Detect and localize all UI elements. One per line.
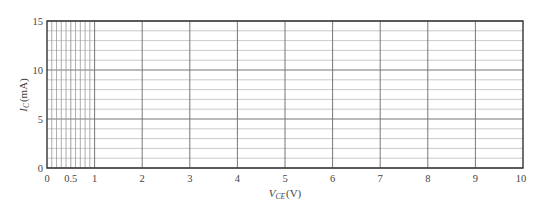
x-tick-label: 3	[187, 173, 192, 184]
x-tick-label: 4	[235, 173, 241, 184]
x-tick-label: 0	[44, 173, 49, 184]
x-tick-label: 6	[330, 173, 335, 184]
x-tick-label: 2	[140, 173, 145, 184]
x-tick-label: 8	[425, 173, 430, 184]
x-tick-label: 7	[378, 173, 383, 184]
x-tick-label: 1	[92, 173, 97, 184]
grid-lines	[47, 21, 523, 168]
y-tick-label: 15	[33, 16, 44, 27]
x-tick-label: 0.5	[64, 173, 77, 184]
x-tick-label: 5	[282, 173, 287, 184]
y-axis-label: IC(mA)	[17, 78, 31, 113]
y-tick-label: 5	[38, 114, 43, 125]
x-axis-label: VCE(V)	[269, 187, 302, 201]
y-tick-label: 0	[38, 163, 43, 174]
x-tick-label: 9	[473, 173, 478, 184]
y-tick-labels: 051015	[33, 16, 44, 174]
x-tick-label: 10	[516, 173, 527, 184]
x-tick-labels: 00.512345678910	[44, 173, 526, 184]
y-tick-label: 10	[33, 65, 44, 76]
characteristic-curve-grid: 00.512345678910 051015 VCE(V) IC(mA)	[0, 0, 541, 216]
